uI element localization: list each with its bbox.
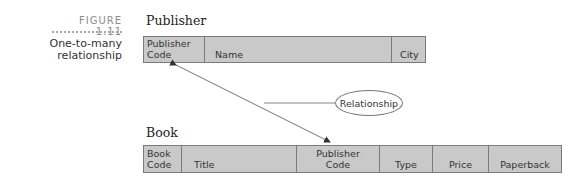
double-arrow-line: [176, 65, 330, 142]
relationship-label: Relationship: [340, 98, 398, 109]
relationship-connector: [0, 0, 585, 178]
relationship-ellipse: Relationship: [335, 90, 403, 116]
